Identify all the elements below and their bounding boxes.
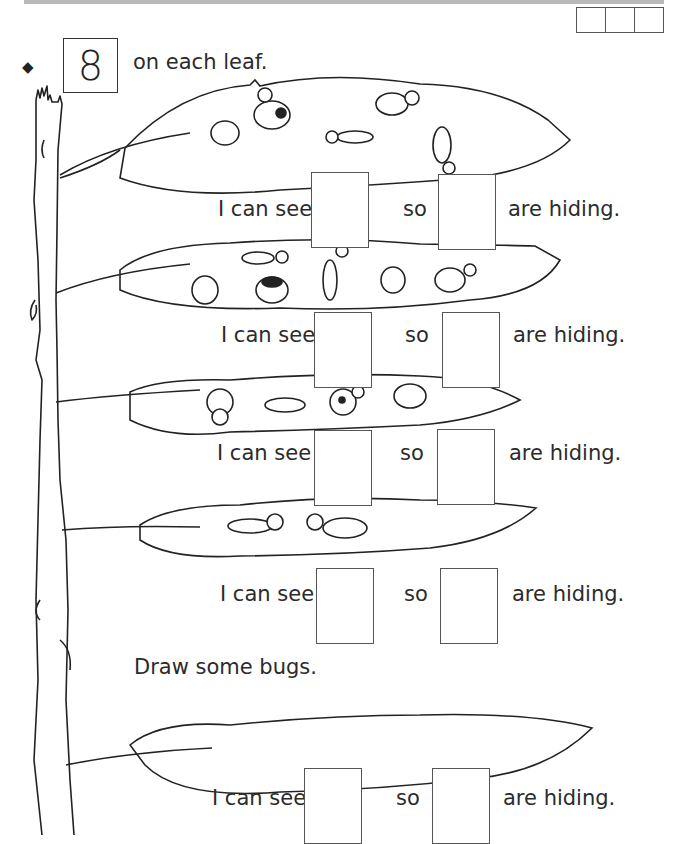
row-prefix: I can see — [217, 441, 311, 465]
hiding-count-box[interactable] — [437, 429, 495, 505]
row-middle: so — [396, 786, 420, 810]
row-prefix: I can see — [218, 197, 312, 221]
row-prefix: I can see — [220, 582, 314, 606]
hiding-count-box[interactable] — [440, 568, 498, 644]
row-suffix: are hiding. — [503, 786, 615, 810]
row-middle: so — [404, 582, 428, 606]
hiding-count-box[interactable] — [442, 312, 500, 388]
leaf-2 — [56, 240, 560, 309]
hiding-count-box[interactable] — [432, 768, 490, 844]
seen-count-box[interactable] — [304, 768, 362, 844]
row-suffix: are hiding. — [512, 582, 624, 606]
seen-count-box[interactable] — [311, 172, 369, 248]
row-middle: so — [405, 323, 429, 347]
row-suffix: are hiding. — [513, 323, 625, 347]
row-suffix: are hiding. — [509, 441, 621, 465]
row-prefix: I can see — [221, 323, 315, 347]
draw-prompt: Draw some bugs. — [134, 655, 317, 679]
row-middle: so — [403, 197, 427, 221]
seen-count-box[interactable] — [314, 430, 372, 506]
leaf-4 — [62, 498, 536, 556]
seen-count-box[interactable] — [316, 568, 374, 644]
row-suffix: are hiding. — [508, 197, 620, 221]
seen-count-box[interactable] — [314, 312, 372, 388]
row-prefix: I can see — [212, 786, 306, 810]
row-middle: so — [400, 441, 424, 465]
hiding-count-box[interactable] — [438, 174, 496, 250]
